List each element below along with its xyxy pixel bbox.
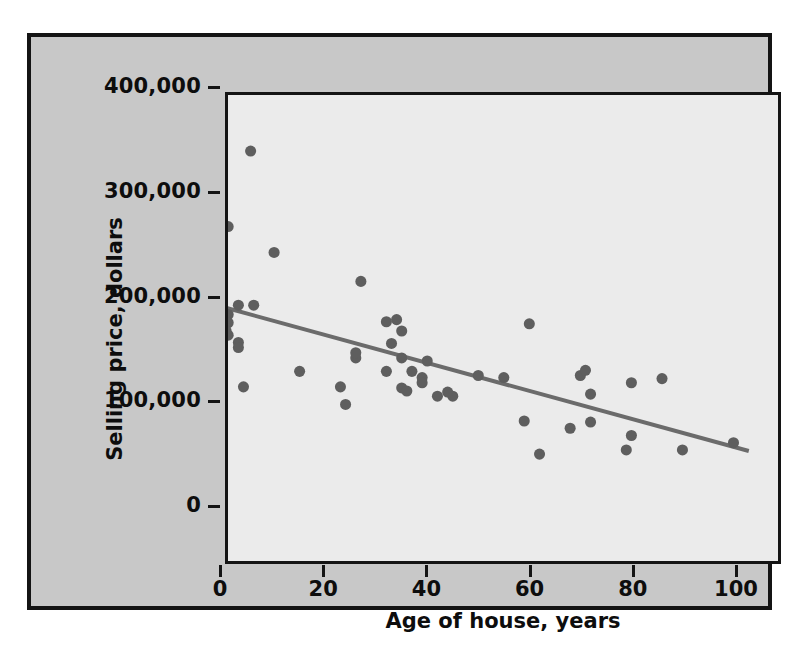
scatter-point bbox=[396, 325, 407, 336]
scatter-point bbox=[580, 365, 591, 376]
scatter-point bbox=[245, 146, 256, 157]
scatter-point bbox=[401, 385, 412, 396]
scatter-point bbox=[534, 449, 545, 460]
figure-container: Selling price, dollars 0100,000200,00030… bbox=[0, 0, 805, 646]
x-tick-mark bbox=[632, 565, 635, 577]
scatter-point bbox=[565, 423, 576, 434]
scatter-point bbox=[422, 355, 433, 366]
chart-panel: Selling price, dollars 0100,000200,00030… bbox=[27, 33, 772, 610]
scatter-point bbox=[340, 399, 351, 410]
x-axis-title: Age of house, years bbox=[225, 609, 781, 633]
scatter-point bbox=[238, 381, 249, 392]
x-tick-label: 100 bbox=[714, 577, 758, 601]
scatter-point bbox=[233, 342, 244, 353]
x-tick-mark bbox=[735, 565, 738, 577]
plot-area bbox=[225, 92, 781, 564]
scatter-point bbox=[473, 370, 484, 381]
scatter-point bbox=[417, 377, 428, 388]
scatter-point bbox=[335, 381, 346, 392]
x-tick-mark bbox=[529, 565, 532, 577]
scatter-point bbox=[677, 444, 688, 455]
scatter-point bbox=[381, 316, 392, 327]
x-tick-mark bbox=[425, 565, 428, 577]
x-tick-label: 60 bbox=[515, 577, 544, 601]
scatter-point bbox=[728, 437, 739, 448]
scatter-point bbox=[519, 415, 530, 426]
x-tick-label: 0 bbox=[213, 577, 228, 601]
scatter-point bbox=[406, 366, 417, 377]
scatter-point bbox=[656, 373, 667, 384]
scatter-point bbox=[585, 389, 596, 400]
x-tick-mark bbox=[322, 565, 325, 577]
x-tick-label: 80 bbox=[618, 577, 647, 601]
scatter-point bbox=[626, 377, 637, 388]
scatter-point bbox=[386, 338, 397, 349]
scatter-point bbox=[381, 366, 392, 377]
x-tick-label: 20 bbox=[309, 577, 338, 601]
x-tick-label: 40 bbox=[412, 577, 441, 601]
x-tick-mark bbox=[219, 565, 222, 577]
scatter-point bbox=[585, 417, 596, 428]
scatter-point bbox=[621, 444, 632, 455]
scatter-point bbox=[498, 372, 509, 383]
scatter-point bbox=[355, 276, 366, 287]
scatter-point bbox=[228, 330, 234, 341]
scatter-point bbox=[248, 300, 259, 311]
scatter-point bbox=[442, 387, 453, 398]
scatter-plot-canvas bbox=[228, 95, 778, 561]
scatter-point bbox=[391, 314, 402, 325]
scatter-point bbox=[524, 318, 535, 329]
scatter-point bbox=[269, 247, 280, 258]
scatter-point bbox=[233, 300, 244, 311]
scatter-point bbox=[350, 347, 361, 358]
scatter-point bbox=[626, 430, 637, 441]
scatter-point bbox=[396, 352, 407, 363]
scatter-point bbox=[228, 221, 234, 232]
scatter-point bbox=[294, 366, 305, 377]
scatter-point bbox=[432, 391, 443, 402]
regression-line bbox=[228, 300, 749, 451]
